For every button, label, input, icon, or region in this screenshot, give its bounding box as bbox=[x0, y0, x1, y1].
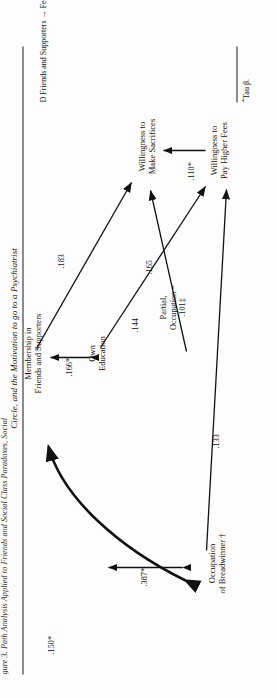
coef-partial-occupation: Partial, Occupation = .101‡ bbox=[158, 268, 187, 346]
coef-occ-to-fees: .133 bbox=[211, 433, 221, 448]
node-sacrifices-line1: Willingness to bbox=[136, 121, 146, 171]
figure-canvas: gure 3. Path Analysis Applied to Friends… bbox=[0, 0, 277, 698]
node-occupation: Occupation of Breadwinner † bbox=[206, 488, 227, 638]
footnote-d: D Friends and Supporters → Fees = .08 (0… bbox=[38, 0, 47, 102]
coef-partial-line3: .101‡ bbox=[177, 268, 187, 346]
coef-occ-to-membership: .150* bbox=[46, 635, 56, 654]
coef-education-to-membership: .166* bbox=[64, 357, 74, 376]
node-education-line2: Education bbox=[96, 308, 106, 398]
footnote-tau-text: Tau β. bbox=[242, 79, 251, 99]
coef-partial-line2: Occupation = bbox=[168, 268, 178, 346]
node-membership-line1: Membership in bbox=[22, 327, 32, 379]
coef-education-to-fees: .144 bbox=[130, 317, 140, 332]
footnote-tau: *Tau β. bbox=[239, 79, 251, 102]
node-fees-line1: Willingness to bbox=[208, 125, 218, 175]
node-fees: Willingness to Pay Higher Fees bbox=[208, 82, 229, 218]
coef-fees-to-sacrifices: .110* bbox=[186, 162, 196, 180]
rotated-figure: gure 3. Path Analysis Applied to Friends… bbox=[0, 0, 277, 698]
footnote-rule bbox=[236, 46, 237, 102]
node-fees-line2: Pay Higher Fees bbox=[218, 82, 228, 218]
node-membership: Membership in Friends and Supporters bbox=[22, 278, 43, 428]
node-sacrifices: Willingness to Make Sacrifices bbox=[136, 82, 157, 210]
coef-occ-to-education: .387* bbox=[139, 567, 149, 586]
node-education: Own Education bbox=[86, 308, 107, 398]
node-education-line1: Own bbox=[86, 345, 96, 362]
footnote-tau-marker: * bbox=[239, 99, 247, 103]
node-membership-line2: Friends and Supporters bbox=[32, 278, 42, 428]
node-occupation-line1: Occupation bbox=[206, 543, 216, 583]
node-sacrifices-line2: Make Sacrifices bbox=[146, 82, 156, 210]
coef-education-to-sacrifices: .165 bbox=[144, 259, 154, 274]
coef-membership-to-sacrifices: .183 bbox=[56, 253, 66, 268]
node-occupation-line2: of Breadwinner † bbox=[216, 488, 226, 638]
coef-partial-line1: Partial, bbox=[158, 268, 168, 346]
